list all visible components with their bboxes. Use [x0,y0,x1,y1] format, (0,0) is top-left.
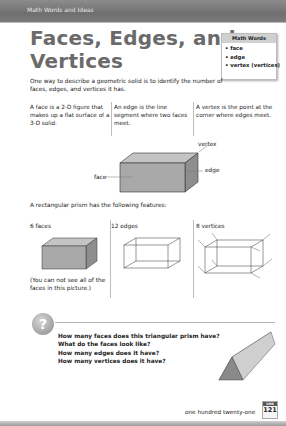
vertex-label: vertex [198,141,217,147]
definition-edge: An edge is the line segment where two fa… [114,103,192,127]
divider [110,220,111,298]
question-item: How many faces does this triangular pris… [58,332,220,340]
math-word-item: • edge [225,53,276,62]
question-rule [55,322,275,323]
page-number: 121 [263,406,277,414]
question-item: How many vertices does it have? [58,357,220,365]
question-item: How many edges does it have? [58,349,220,357]
page-number-words: one hundred twenty-one [185,409,255,415]
section-header-label: Math Words and Ideas [27,6,94,13]
triangular-prism-figure [205,330,277,382]
page-number-badge: SMR 121 [262,401,278,419]
features-intro: A rectangular prism has the following fe… [30,202,167,208]
solid-prism-figure [40,236,100,272]
wireframe-prism-edges [122,236,184,272]
question-list: How many faces does this triangular pris… [58,332,220,366]
feature-faces-title: 6 faces [30,223,51,229]
divider [193,220,194,298]
feature-edges-title: 12 edges [111,223,138,229]
math-words-box: Math Words • face • edge • vertex (verti… [221,33,277,80]
definition-vertex: A vertex is the point at the corner wher… [196,103,278,119]
page-title: Faces, Edges, and Vertices [30,27,236,73]
question-item: What do the faces look like? [58,340,220,348]
face-label: face [94,174,106,180]
rectangular-prism-diagram [60,140,260,210]
faces-note: (You can not see all of the faces in thi… [30,276,110,292]
divider [111,102,112,136]
intro-paragraph: One way to describe a geometric solid is… [30,77,230,93]
math-word-item: • vertex (vertices) [225,61,276,70]
definition-face: A face is a 2-D figure that makes up a f… [30,103,110,127]
question-icon: ? [32,313,54,335]
title-line-1: Faces, Edges, and [30,27,236,50]
edge-label: edge [205,167,220,173]
wireframe-prism-vertices [198,233,276,283]
math-word-item: • face [225,44,276,53]
feature-vertices-title: 8 vertices [196,223,225,229]
math-words-heading: Math Words [222,34,276,43]
bottom-bar [0,421,286,426]
title-line-2: Vertices [30,50,236,73]
divider [193,102,194,136]
